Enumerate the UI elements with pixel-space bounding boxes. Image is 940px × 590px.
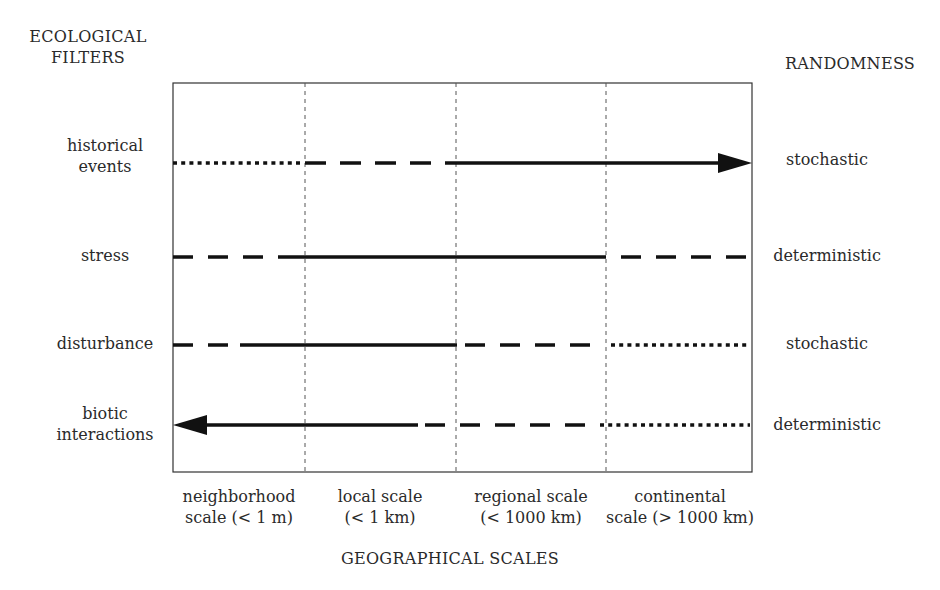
biotic-interactions-line [173,415,750,435]
scale-label-line1: local scale [305,486,455,507]
scale-label-line2: scale (> 1000 km) [600,507,760,528]
filter-label-line2: interactions [40,424,170,445]
scale-label-local: local scale (< 1 km) [305,486,455,528]
x-axis-title: GEOGRAPHICAL SCALES [300,548,600,569]
randomness-stress: deterministic [762,245,892,266]
arrow-right-icon [718,153,752,173]
filter-label-line2: events [40,156,170,177]
scale-frame [173,83,752,472]
randomness-biotic-interactions: deterministic [762,414,892,435]
filter-label-biotic-interactions: biotic interactions [40,403,170,445]
scale-label-regional: regional scale (< 1000 km) [456,486,606,528]
scale-label-line2: (< 1 km) [305,507,455,528]
filter-label-historical-events: historical events [40,135,170,177]
scale-label-line2: (< 1000 km) [456,507,606,528]
arrow-left-icon [173,415,207,435]
scale-label-neighborhood: neighborhood scale (< 1 m) [164,486,314,528]
filter-label-line1: biotic [40,403,170,424]
scale-label-continental: continental scale (> 1000 km) [600,486,760,528]
scale-label-line1: continental [600,486,760,507]
historical-events-line [173,153,752,173]
filter-label-line1: historical [40,135,170,156]
scale-label-line1: neighborhood [164,486,314,507]
filter-label-disturbance: disturbance [40,333,170,354]
filter-label-stress: stress [40,245,170,266]
randomness-historical-events: stochastic [762,149,892,170]
scale-label-line2: scale (< 1 m) [164,507,314,528]
randomness-disturbance: stochastic [762,333,892,354]
scale-label-line1: regional scale [456,486,606,507]
